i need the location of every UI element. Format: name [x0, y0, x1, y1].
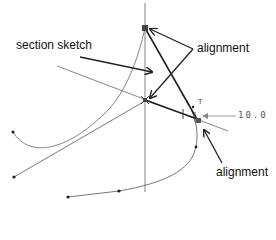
endpoint-dot[interactable] [12, 175, 15, 178]
alignment-arrow-origin [150, 49, 193, 98]
centerline [57, 66, 228, 131]
alignment-arrow-bottom [204, 130, 222, 163]
vertex-marker-top[interactable] [142, 25, 148, 31]
alignment-label-top: alignment [197, 42, 249, 54]
trajectory-line [14, 101, 145, 177]
tangent-mark: T [198, 98, 202, 105]
alignment-arrow-top [150, 29, 193, 49]
dimension-value[interactable]: 10.0 [238, 111, 268, 120]
origin-curve [68, 95, 197, 197]
endpoint-dot[interactable] [11, 130, 14, 133]
endpoint-dot[interactable] [117, 189, 120, 192]
alignment-label-bottom: alignment [216, 166, 268, 178]
section-sketch-arrow [80, 57, 152, 72]
section-sketch-label: section sketch [16, 39, 92, 51]
vertex-marker-alignment[interactable] [196, 118, 201, 123]
endpoint-dot[interactable] [66, 195, 69, 198]
endpoint-dot[interactable] [192, 106, 194, 108]
section-line-top [145, 28, 198, 121]
endpoint-dot[interactable] [195, 146, 198, 149]
